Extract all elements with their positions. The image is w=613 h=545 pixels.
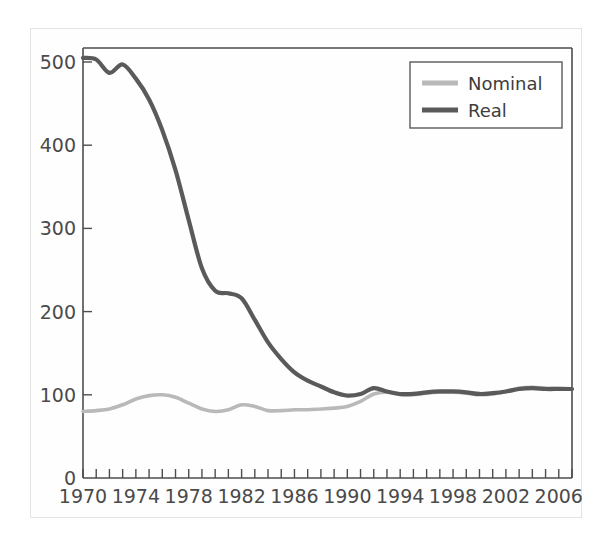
chart-legend: Nominal Real <box>410 62 562 128</box>
x-tick-label-1990: 1990 <box>323 485 371 507</box>
x-tick-label-1974: 1974 <box>112 485 160 507</box>
y-tick-label-100: 100 <box>40 384 76 406</box>
x-tick-label-1982: 1982 <box>217 485 265 507</box>
x-tick-label-1970: 1970 <box>59 485 107 507</box>
y-axis-ticks <box>83 62 92 395</box>
x-tick-label-1998: 1998 <box>429 485 477 507</box>
x-axis-ticks <box>83 469 572 478</box>
y-tick-label-400: 400 <box>40 134 76 156</box>
y-tick-label-300: 300 <box>40 217 76 239</box>
y-axis-tick-labels: 0 100 200 300 400 500 <box>40 51 76 489</box>
x-tick-label-1986: 1986 <box>270 485 318 507</box>
x-axis-tick-labels: 1970197419781982198619901994199820022006 <box>59 485 583 507</box>
legend-label-nominal: Nominal <box>468 73 542 94</box>
x-tick-label-2006: 2006 <box>535 485 583 507</box>
x-tick-label-1994: 1994 <box>376 485 424 507</box>
y-tick-label-500: 500 <box>40 51 76 73</box>
x-tick-label-2002: 2002 <box>482 485 530 507</box>
x-tick-label-1978: 1978 <box>165 485 213 507</box>
y-tick-label-200: 200 <box>40 301 76 323</box>
chart-figure: 0 100 200 300 400 500 197019741978198219… <box>0 0 613 545</box>
legend-label-real: Real <box>468 100 507 121</box>
line-chart: 0 100 200 300 400 500 197019741978198219… <box>0 0 613 545</box>
